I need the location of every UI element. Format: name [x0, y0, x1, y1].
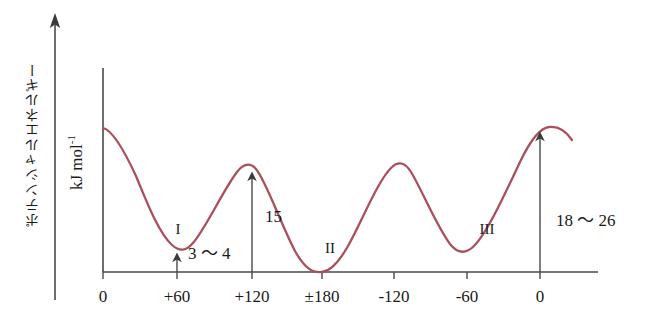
xtick-label-0: 0: [99, 288, 108, 305]
y-axis-unit-text: kJ mol: [67, 144, 86, 190]
barrier-value-peak4: 18 ～ 26: [556, 212, 616, 229]
chart-canvas: [0, 0, 661, 324]
chart-figure: ポテンシャルエネルギー kJ mol-1 0 +60 +120 ±180 -12…: [0, 0, 661, 324]
xtick-label-plus120: +120: [234, 288, 269, 305]
xtick-label-minus120: -120: [378, 288, 409, 305]
y-axis-unit-label: kJ mol-1: [66, 135, 85, 190]
y-axis-label: ポテンシャルエネルギー: [26, 62, 40, 227]
xtick-label-pm180: ±180: [305, 288, 340, 305]
xtick-label-plus60: +60: [164, 288, 191, 305]
minimum-label-II: II: [325, 241, 335, 256]
y-axis: [50, 13, 60, 300]
y-axis-unit-exponent: -1: [65, 135, 77, 144]
barrier-value-peak2: 15: [265, 208, 282, 225]
xtick-label-minus60: -60: [456, 288, 479, 305]
minimum-label-III: III: [480, 222, 495, 237]
energy-curve: [103, 127, 572, 272]
barrier-value-min1: 3 ～ 4: [188, 245, 231, 262]
xtick-label-0-right: 0: [536, 288, 545, 305]
minimum-label-I: I: [176, 222, 181, 237]
